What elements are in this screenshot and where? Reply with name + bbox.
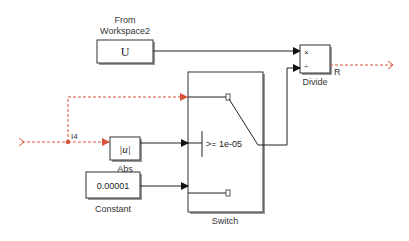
from-workspace-label-2: Workspace2 bbox=[100, 26, 150, 36]
from-workspace-block[interactable]: U bbox=[97, 40, 155, 65]
divide-block[interactable]: × ÷ bbox=[300, 45, 332, 75]
constant-content: 0.00001 bbox=[97, 181, 130, 191]
switch-label: Switch bbox=[212, 216, 239, 226]
switch-block[interactable]: >= 1e-05 bbox=[188, 72, 265, 214]
from-workspace-content: U bbox=[121, 45, 130, 59]
divide-output-label: R bbox=[334, 67, 341, 77]
wire-switch-to-divide[interactable] bbox=[263, 68, 300, 145]
simulink-canvas: U From Workspace2 × ÷ Divide R >= 1e-05 … bbox=[0, 0, 409, 241]
switch-criteria: >= 1e-05 bbox=[206, 139, 242, 149]
divide-port-multiply: × bbox=[304, 48, 309, 57]
wire-input-to-switch[interactable] bbox=[68, 97, 187, 142]
constant-block[interactable]: 0.00001 bbox=[86, 172, 142, 200]
abs-block[interactable]: |u| bbox=[110, 137, 142, 162]
from-workspace-label-1: From bbox=[115, 15, 136, 25]
signal-label-i4: I4 bbox=[71, 132, 78, 141]
divide-label: Divide bbox=[302, 77, 327, 87]
abs-content: |u| bbox=[119, 143, 131, 155]
input-arrow-open bbox=[19, 138, 24, 146]
divide-port-divide: ÷ bbox=[304, 62, 309, 71]
constant-label: Constant bbox=[95, 204, 132, 214]
